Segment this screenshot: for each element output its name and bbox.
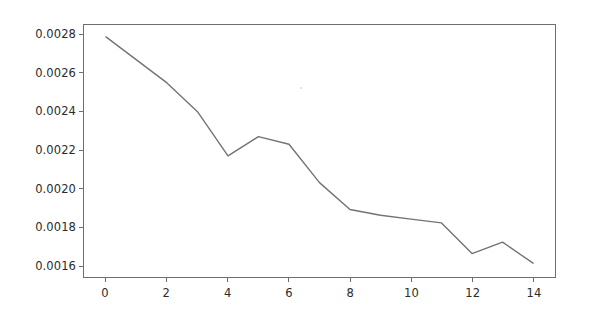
y-axis: 0.00160.00180.00200.00220.00240.00260.00… [0,0,83,319]
x-axis-tick-mark [105,278,106,282]
x-axis-tick: 6 [269,278,309,300]
y-axis-tick-label: 0.0028 [35,27,76,41]
x-axis-tick-label: 2 [146,286,186,300]
x-axis-tick-mark [166,278,167,282]
figure-canvas: 0.00160.00180.00200.00220.00240.00260.00… [0,0,611,319]
x-axis-tick: 0 [85,278,125,300]
y-axis-tick: 0.0022 [35,143,83,157]
x-axis-tick-label: 10 [391,286,431,300]
y-axis-tick: 0.0018 [35,220,83,234]
x-axis-tick: 12 [453,278,493,300]
y-axis-tick: 0.0024 [35,104,83,118]
y-axis-tick: 0.0020 [35,182,83,196]
x-axis: 02468101214 [0,278,611,319]
y-axis-tick: 0.0026 [35,66,83,80]
x-axis-tick: 8 [330,278,370,300]
y-axis-tick: 0.0016 [35,259,83,273]
plot-area [83,24,556,278]
y-axis-tick-label: 0.0026 [35,66,76,80]
x-axis-tick: 2 [146,278,186,300]
x-axis-tick-label: 6 [269,286,309,300]
x-axis-tick-mark [533,278,534,282]
x-axis-tick-mark [227,278,228,282]
x-axis-tick-label: 8 [330,286,370,300]
x-axis-tick-mark [411,278,412,282]
data-line [106,37,533,263]
x-axis-tick-mark [350,278,351,282]
y-axis-tick-label: 0.0024 [35,104,76,118]
x-axis-tick-label: 14 [514,286,554,300]
x-axis-tick: 14 [514,278,554,300]
y-axis-tick-label: 0.0020 [35,182,76,196]
x-axis-tick-mark [472,278,473,282]
scan-artifact-speck [300,87,302,89]
y-axis-tick-label: 0.0016 [35,259,76,273]
x-axis-tick: 4 [208,278,248,300]
x-axis-tick: 10 [391,278,431,300]
y-axis-tick: 0.0028 [35,27,83,41]
x-axis-tick-label: 0 [85,286,125,300]
line-series-svg [84,25,555,277]
x-axis-tick-mark [288,278,289,282]
y-axis-tick-label: 0.0022 [35,143,76,157]
x-axis-tick-label: 12 [453,286,493,300]
y-axis-tick-label: 0.0018 [35,220,76,234]
x-axis-tick-label: 4 [208,286,248,300]
